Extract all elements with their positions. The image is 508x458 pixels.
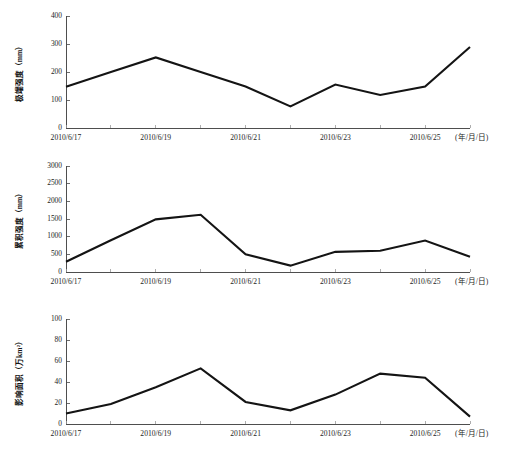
y-tick-label: 0 — [58, 419, 62, 428]
y-tick-label: 60 — [55, 356, 63, 365]
y-tick-label: 2500 — [47, 178, 62, 187]
y-tick-label: 80 — [55, 335, 63, 344]
x-tick-label: 2010/6/17 — [51, 277, 82, 286]
chart-panel-cumulative-intensity: 0500100015002000250030002010/6/172010/6/… — [0, 152, 508, 307]
y-tick-label: 300 — [51, 39, 62, 48]
data-series-line — [66, 215, 470, 266]
x-axis-unit-label: (年/月/日) — [455, 276, 489, 286]
chart-panel-extreme-intensity: 01002003004002010/6/172010/6/192010/6/21… — [0, 0, 508, 152]
data-series-line — [66, 368, 470, 416]
y-tick-label: 500 — [51, 249, 62, 258]
x-tick-label: 2010/6/25 — [410, 277, 441, 286]
x-tick-label: 2010/6/25 — [410, 429, 441, 438]
figure-container: 01002003004002010/6/172010/6/192010/6/21… — [0, 0, 508, 458]
y-tick-label: 0 — [58, 267, 62, 276]
x-axis-unit-label: (年/月/日) — [455, 428, 489, 438]
y-tick-label: 200 — [51, 67, 62, 76]
x-tick-label: 2010/6/19 — [140, 429, 171, 438]
y-tick-label: 1500 — [47, 214, 62, 223]
y-tick-label: 20 — [55, 398, 63, 407]
x-tick-label: 2010/6/17 — [51, 429, 82, 438]
x-tick-label: 2010/6/21 — [230, 133, 261, 142]
y-tick-label: 1000 — [47, 231, 62, 240]
x-tick-label: 2010/6/25 — [410, 133, 441, 142]
x-tick-label: 2010/6/19 — [140, 277, 171, 286]
y-tick-label: 100 — [51, 314, 62, 323]
x-axis-unit-label: (年/月/日) — [455, 132, 489, 142]
y-tick-label: 100 — [51, 95, 62, 104]
y-axis-label: 影响面积（万km²） — [14, 337, 24, 406]
x-tick-label: 2010/6/17 — [51, 133, 82, 142]
y-tick-label: 0 — [58, 123, 62, 132]
x-tick-label: 2010/6/23 — [320, 277, 351, 286]
y-tick-label: 400 — [51, 11, 62, 20]
x-tick-label: 2010/6/21 — [230, 429, 261, 438]
chart-panel-affected-area: 0204060801002010/6/172010/6/192010/6/212… — [0, 307, 508, 458]
y-axis-label: 累积强度（mm） — [14, 189, 24, 250]
data-series-line — [66, 47, 470, 106]
x-tick-label: 2010/6/21 — [230, 277, 261, 286]
y-tick-label: 2000 — [47, 196, 62, 205]
line-chart-svg: 0204060801002010/6/172010/6/192010/6/212… — [0, 307, 508, 458]
y-tick-label: 40 — [55, 377, 63, 386]
x-tick-label: 2010/6/19 — [140, 133, 171, 142]
line-chart-svg: 0500100015002000250030002010/6/172010/6/… — [0, 152, 508, 307]
y-tick-label: 3000 — [47, 161, 62, 170]
line-chart-svg: 01002003004002010/6/172010/6/192010/6/21… — [0, 0, 508, 152]
x-tick-label: 2010/6/23 — [320, 133, 351, 142]
x-tick-label: 2010/6/23 — [320, 429, 351, 438]
y-axis-label: 极端强度（mm） — [14, 42, 24, 103]
